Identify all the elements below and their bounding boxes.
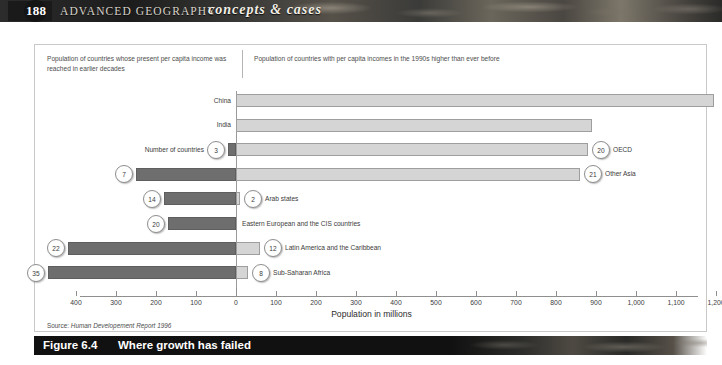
country-count-bubble-left: 14 [143, 190, 161, 208]
x-axis-tick [196, 291, 197, 296]
bar-right-segment [236, 192, 240, 205]
x-axis-tick-label: 700 [496, 299, 536, 306]
category-label: China [35, 97, 231, 104]
x-axis-tick [716, 291, 717, 296]
category-label: Latin America and the Caribbean [285, 244, 381, 251]
bar-left-segment [164, 192, 236, 205]
category-label: India [35, 121, 231, 128]
country-count-bubble-left: 7 [115, 165, 133, 183]
category-label: Arab states [265, 195, 298, 202]
bar-left-segment [68, 242, 236, 255]
number-of-countries-label: Number of countries [35, 146, 204, 153]
bar-right-segment [236, 242, 260, 255]
x-axis-line [80, 296, 698, 297]
x-axis-tick-label: 100 [176, 299, 216, 306]
chart-row: 20Eastern European and the CIS countries [35, 217, 708, 230]
figure-caption-bar: Figure 6.4 Where growth has failed [34, 336, 707, 355]
x-axis-tick-label: 200 [136, 299, 176, 306]
x-axis-tick-label: 300 [96, 299, 136, 306]
source-prefix: Source: [47, 322, 71, 329]
x-axis-tick-label: 400 [56, 299, 96, 306]
country-count-bubble-left: 35 [27, 264, 45, 282]
category-label: Other Asia [605, 170, 636, 177]
x-axis-tick [476, 291, 477, 296]
x-axis-title: Population in millions [35, 309, 708, 319]
x-axis-tick-label: 800 [536, 299, 576, 306]
x-axis-tick [276, 291, 277, 296]
diverging-bar-chart: Population in millions ChinaIndia320OECD… [35, 45, 708, 333]
x-axis-tick [516, 291, 517, 296]
x-axis-tick [556, 291, 557, 296]
country-count-bubble-right: 21 [584, 165, 602, 183]
bar-right-segment [236, 94, 714, 107]
figure-page: 188 ADVANCED GEOGRAPHY concepts & cases … [0, 0, 722, 365]
country-count-bubble-left: 20 [147, 215, 165, 233]
chart-row: 358Sub-Saharan Africa [35, 266, 708, 279]
book-subtitle: concepts & cases [208, 2, 322, 18]
x-axis-tick [676, 291, 677, 296]
x-axis-tick-label: 100 [256, 299, 296, 306]
x-axis-tick [396, 291, 397, 296]
chart-row: China [35, 94, 708, 107]
chart-row: 320OECDNumber of countries [35, 143, 708, 156]
country-count-bubble-right: 2 [244, 190, 262, 208]
category-label: Sub-Saharan Africa [273, 269, 330, 276]
chart-row: 721Other Asia [35, 168, 708, 181]
x-axis-tick [316, 291, 317, 296]
figure-number: Figure 6.4 [43, 339, 97, 351]
chart-row: 142Arab states [35, 192, 708, 205]
x-axis-tick-label: 1,100 [656, 299, 696, 306]
source-note: Source: Human Developement Report 1996 [47, 322, 171, 329]
bar-right-segment [236, 119, 592, 132]
category-label: OECD [613, 146, 632, 153]
chart-row: 2212Latin America and the Caribbean [35, 242, 708, 255]
x-axis-tick-label: 600 [456, 299, 496, 306]
country-count-bubble-right: 12 [264, 239, 282, 257]
running-head-banner: 188 ADVANCED GEOGRAPHY concepts & cases [0, 0, 722, 22]
x-axis-tick [436, 291, 437, 296]
bar-right-segment [236, 143, 588, 156]
bar-left-segment [136, 168, 236, 181]
x-axis-tick-label: 200 [296, 299, 336, 306]
bar-left-segment [48, 266, 236, 279]
x-axis-tick [356, 291, 357, 296]
x-axis-tick-label: 1,200 [696, 299, 722, 306]
x-axis-tick-label: 0 [216, 299, 256, 306]
x-axis-tick [636, 291, 637, 296]
country-count-bubble-right: 20 [592, 141, 610, 159]
x-axis-tick-label: 900 [576, 299, 616, 306]
country-count-bubble-left: 3 [207, 141, 225, 159]
bar-right-segment [236, 266, 248, 279]
x-axis-tick [156, 291, 157, 296]
book-title: ADVANCED GEOGRAPHY [60, 5, 217, 17]
x-axis-tick-label: 1,000 [616, 299, 656, 306]
x-axis-tick-label: 400 [376, 299, 416, 306]
bar-right-segment [236, 168, 580, 181]
page-number: 188 [26, 3, 50, 19]
bar-left-segment [228, 143, 236, 156]
x-axis-tick [116, 291, 117, 296]
bar-left-segment [168, 217, 236, 230]
category-label: Eastern European and the CIS countries [242, 220, 360, 227]
source-title: Human Developement Report 1996 [71, 322, 172, 329]
country-count-bubble-right: 8 [252, 264, 270, 282]
x-axis-tick [596, 291, 597, 296]
country-count-bubble-left: 22 [47, 239, 65, 257]
x-axis-tick-label: 300 [336, 299, 376, 306]
figure-frame: Population of countries whose present pe… [34, 44, 707, 332]
x-axis-tick [76, 291, 77, 296]
chart-row: India [35, 119, 708, 132]
x-axis-tick-label: 500 [416, 299, 456, 306]
figure-title: Where growth has failed [118, 339, 251, 351]
x-axis-tick [236, 288, 237, 296]
